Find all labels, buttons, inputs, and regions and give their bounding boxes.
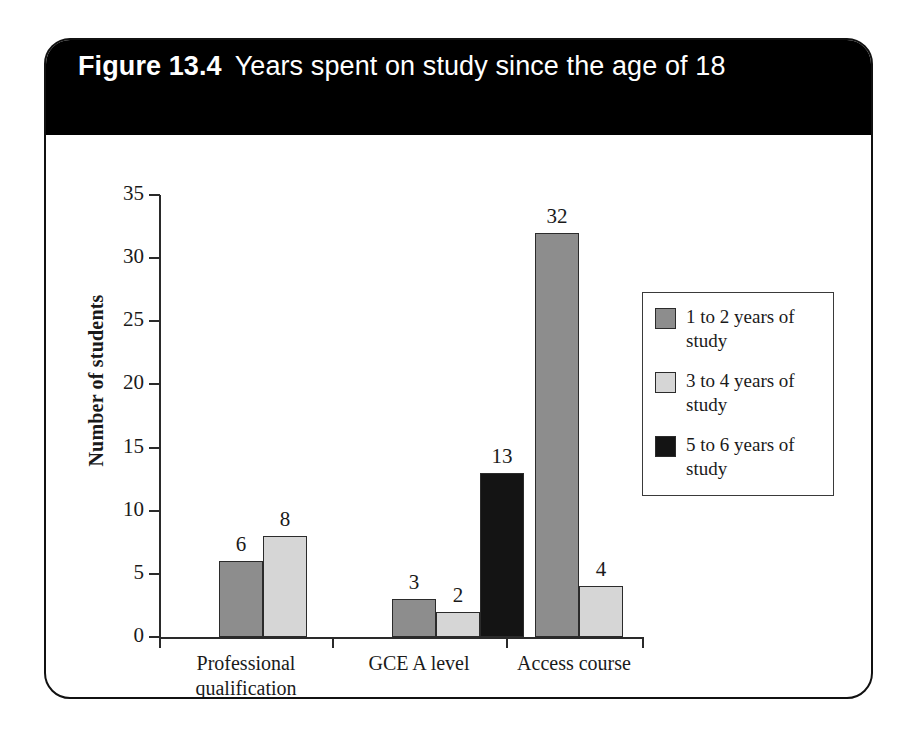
y-axis-tick [149,320,160,322]
bar [392,599,436,637]
y-axis-tick [149,573,160,575]
y-axis-tick-label: 30 [104,244,144,269]
legend-item[interactable]: 1 to 2 years of study [655,305,823,353]
bar [579,586,623,637]
figure-header-band: Figure 13.4Years spent on study since th… [44,38,873,135]
bar-value-label: 13 [477,444,527,469]
legend-swatch-icon [655,436,676,457]
bar-value-label: 6 [216,532,266,557]
x-axis-tick [642,637,644,648]
legend-item-label: 5 to 6 years of study [686,433,823,481]
bar-value-label: 2 [433,583,483,608]
chart-legend: 1 to 2 years of study3 to 4 years of stu… [642,292,834,496]
legend-swatch-icon [655,372,676,393]
x-axis-category-label: Professionalqualification [146,651,346,699]
chart-plot-area: Number of students 05101520253035 683213… [46,137,871,699]
y-axis-tick-label: 10 [104,497,144,522]
y-axis-tick-label: 15 [104,434,144,459]
bar-value-label: 8 [260,507,310,532]
bar [263,536,307,637]
bar [480,473,524,637]
bar-value-label: 3 [389,570,439,595]
x-axis-tick [159,637,161,648]
figure-title: Figure 13.4Years spent on study since th… [78,51,726,82]
y-axis-tick [149,194,160,196]
legend-item[interactable]: 5 to 6 years of study [655,433,823,481]
y-axis-tick-label: 25 [104,307,144,332]
y-axis-tick-label: 5 [104,560,144,585]
y-axis-tick-label: 35 [104,181,144,206]
x-axis-category-label-line: Professional [146,651,346,676]
x-axis-line [159,637,642,639]
legend-item[interactable]: 3 to 4 years of study [655,369,823,417]
y-axis-tick-label: 0 [104,623,144,648]
bar-value-label: 32 [532,204,582,229]
legend-swatch-icon [655,308,676,329]
bar [535,233,579,637]
bar [436,612,480,637]
x-axis-tick [506,637,508,648]
x-axis-category-label-line: Access course [474,651,674,676]
bar-value-label: 4 [576,557,626,582]
y-axis-tick [149,510,160,512]
legend-item-label: 1 to 2 years of study [686,305,823,353]
y-axis-tick [149,257,160,259]
y-axis-tick [149,447,160,449]
x-axis-category-label-line: qualification [146,676,346,699]
y-axis-tick-label: 20 [104,370,144,395]
x-axis-tick [332,637,334,648]
bar [219,561,263,637]
figure-card: Figure 13.4Years spent on study since th… [44,38,873,699]
x-axis-category-label: Access course [474,651,674,676]
y-axis-tick [149,383,160,385]
figure-caption: Years spent on study since the age of 18 [235,51,726,81]
figure-number: Figure 13.4 [78,51,222,81]
legend-item-label: 3 to 4 years of study [686,369,823,417]
